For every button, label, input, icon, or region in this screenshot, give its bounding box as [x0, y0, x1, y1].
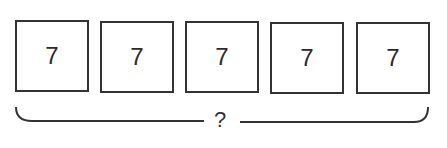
number-box-5: 7	[356, 22, 430, 94]
box-value: 7	[45, 42, 58, 70]
number-box-1: 7	[15, 20, 89, 92]
number-box-4: 7	[270, 22, 344, 94]
box-value: 7	[215, 43, 228, 71]
number-box-3: 7	[185, 21, 259, 93]
unknown-total-label: ?	[205, 107, 235, 133]
box-value: 7	[130, 43, 143, 71]
box-value: 7	[300, 44, 313, 72]
box-value: 7	[386, 44, 399, 72]
number-box-2: 7	[100, 21, 174, 93]
